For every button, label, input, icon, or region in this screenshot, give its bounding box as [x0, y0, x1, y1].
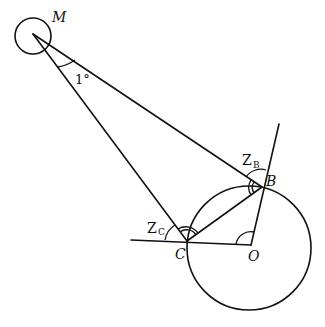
label-zb-sub: B — [253, 160, 260, 170]
circle-m — [15, 18, 51, 54]
geometry-diagram: M 1° Z B B Z C C O — [0, 0, 325, 327]
angle-arc-zc — [165, 225, 175, 240]
label-zb-main: Z — [242, 152, 252, 168]
label-zc-main: Z — [147, 220, 157, 236]
angle-arc-b-2 — [252, 182, 254, 193]
label-b: B — [265, 173, 276, 189]
label-o: O — [248, 248, 260, 264]
label-zc-sub: C — [158, 227, 165, 237]
label-c: C — [175, 246, 186, 262]
angle-arc-zb — [246, 169, 266, 177]
label-m: M — [51, 9, 67, 25]
line-oc-extended — [131, 240, 251, 245]
angle-arc-b-1 — [249, 180, 251, 195]
line-mc — [33, 34, 187, 241]
angle-arc-m — [58, 60, 75, 67]
line-mb — [33, 34, 262, 187]
label-m-angle: 1° — [75, 72, 90, 87]
